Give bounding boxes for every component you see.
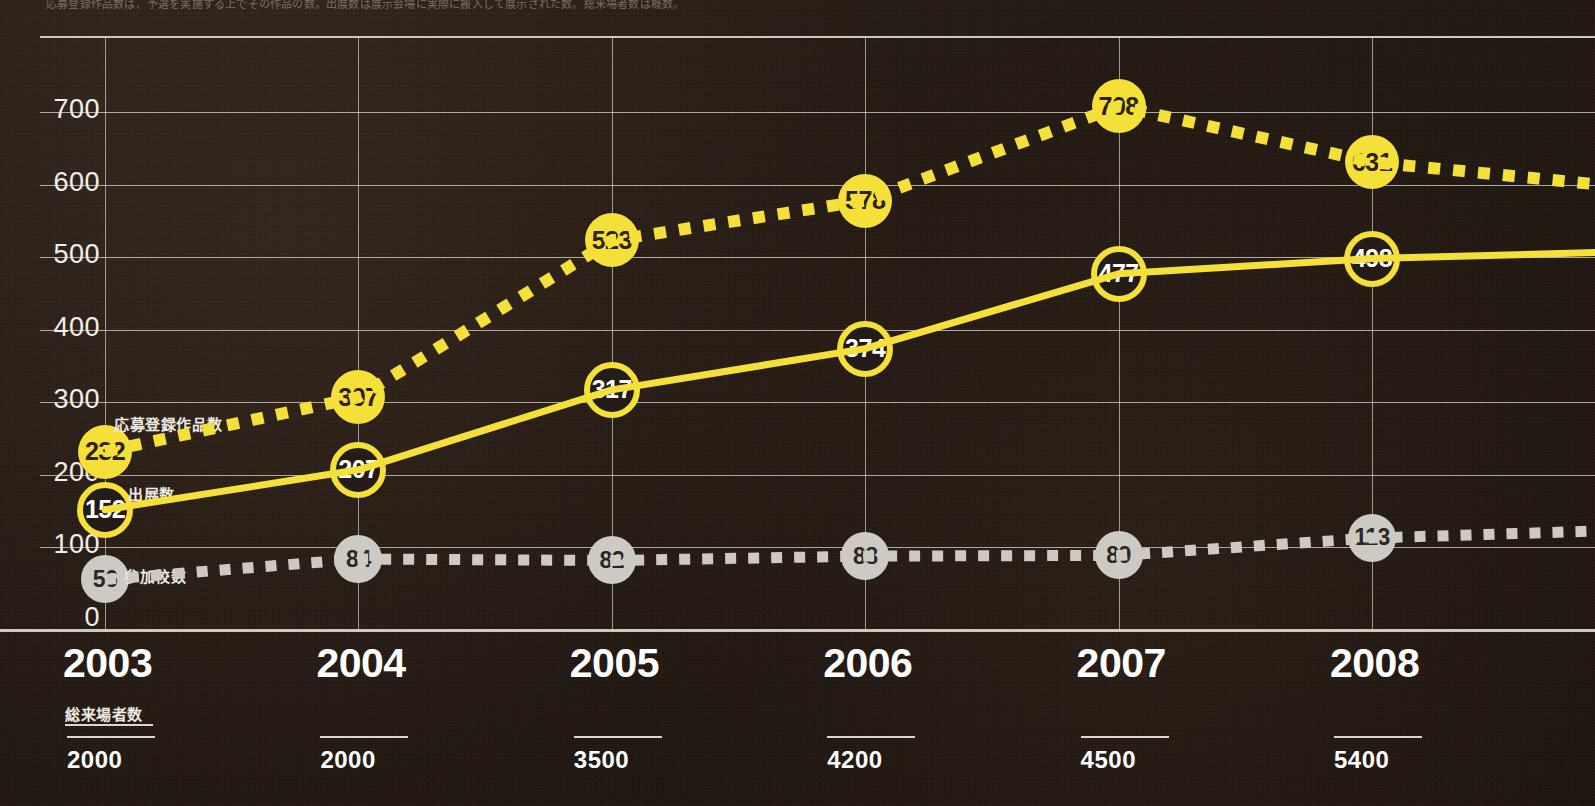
visitors-value: 2000: [67, 746, 217, 774]
visitors-value: 4200: [827, 746, 977, 774]
visitors-cell: 4200: [827, 736, 977, 774]
visitors-value: 3500: [574, 746, 724, 774]
series-line-3: [105, 531, 1595, 579]
visitors-rule: [574, 736, 662, 738]
visitors-rule: [827, 736, 915, 738]
visitors-rule: [320, 736, 408, 738]
series-line-2: [105, 253, 1595, 510]
visitors-rule: [1334, 736, 1422, 738]
visitors-value: 2000: [320, 746, 470, 774]
chart-series-lines: [0, 0, 1595, 806]
chart-page: 応募登録作品数は、予選を実施する上でその作品の数。出展数は展示会場に実際に搬入し…: [0, 0, 1595, 806]
visitors-cell: 4500: [1081, 736, 1231, 774]
visitors-cell: 5400: [1334, 736, 1484, 774]
series-line-1: [105, 106, 1595, 451]
visitors-cell: 2000: [67, 736, 217, 774]
visitors-title-rule: [65, 724, 153, 726]
visitors-cell: 3500: [574, 736, 724, 774]
visitors-rule: [67, 736, 155, 738]
visitors-value: 4500: [1081, 746, 1231, 774]
visitors-value: 5400: [1334, 746, 1484, 774]
visitors-cell: 2000: [320, 736, 470, 774]
visitors-rule: [1081, 736, 1169, 738]
visitors-row: 200020003500420045005400: [0, 700, 1595, 780]
